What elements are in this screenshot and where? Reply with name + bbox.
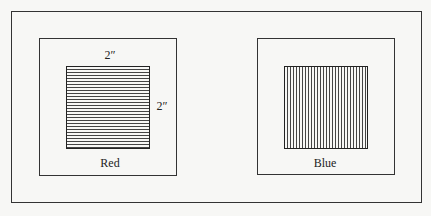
red-label: Red (100, 156, 119, 171)
width-dimension-label: 2″ (105, 48, 116, 63)
blue-vertical-lines-square (284, 66, 368, 149)
height-dimension-label: 2″ (157, 99, 168, 114)
red-horizontal-lines-square (66, 66, 150, 149)
blue-label: Blue (314, 156, 337, 171)
